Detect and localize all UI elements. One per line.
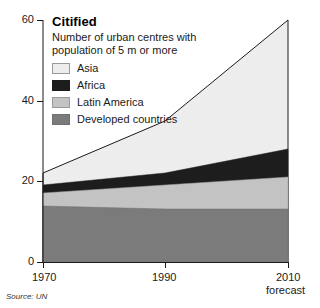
chart-title: Citified bbox=[52, 14, 232, 29]
legend-item-asia: Asia bbox=[52, 61, 232, 75]
title-block: Citified Number of urban centres with po… bbox=[52, 14, 232, 57]
x-axis-forecast-note: forecast bbox=[266, 284, 305, 296]
legend-label-africa: Africa bbox=[77, 79, 105, 91]
x-axis-label-2010: 2010 bbox=[276, 271, 300, 283]
y-axis-ticks bbox=[37, 21, 43, 263]
legend-item-africa: Africa bbox=[52, 78, 232, 92]
x-axis-label-1970: 1970 bbox=[32, 271, 56, 283]
chart-subtitle: Number of urban centres with population … bbox=[52, 31, 232, 57]
chart-figure: 60 40 20 0 1970 1990 2010 forecast Citif… bbox=[0, 0, 320, 308]
y-axis-label-60: 60 bbox=[12, 14, 34, 25]
legend-label-developed-countries: Developed countries bbox=[77, 113, 177, 125]
y-axis-label-20: 20 bbox=[12, 175, 34, 186]
legend-swatch-latin-america bbox=[52, 97, 70, 108]
legend-item-developed-countries: Developed countries bbox=[52, 112, 232, 126]
legend-swatch-africa bbox=[52, 80, 70, 91]
area-developed-countries bbox=[43, 206, 288, 262]
legend-item-latin-america: Latin America bbox=[52, 95, 232, 109]
y-axis-label-0: 0 bbox=[12, 256, 34, 267]
legend-swatch-developed-countries bbox=[52, 114, 70, 125]
x-axis-label-1990: 1990 bbox=[152, 271, 176, 283]
legend-label-asia: Asia bbox=[77, 62, 98, 74]
legend-swatch-asia bbox=[52, 63, 70, 74]
source-note: Source: UN bbox=[6, 292, 47, 301]
legend-label-latin-america: Latin America bbox=[77, 96, 144, 108]
y-axis-label-40: 40 bbox=[12, 95, 34, 106]
chart-legend: Asia Africa Latin America Developed coun… bbox=[52, 61, 232, 129]
